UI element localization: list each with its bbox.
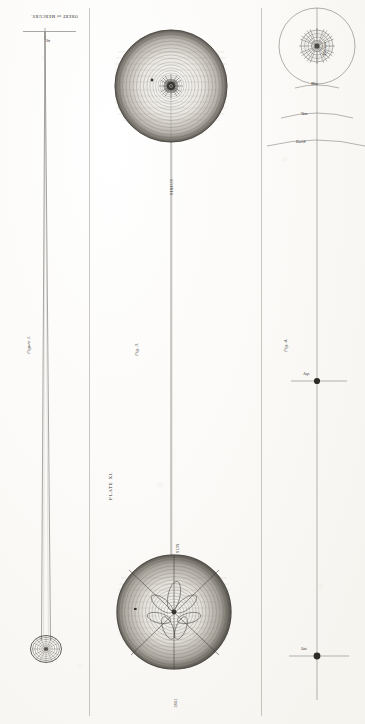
figure-3-bottom-label: 1861 <box>174 698 178 708</box>
figure-3-sun-label: SUN <box>176 543 180 553</box>
figure-4-sun-body-label: The Sun <box>323 42 327 56</box>
figure-1-axis-tick-label: Sn <box>46 39 50 43</box>
engraved-plate: OBERT of MERCURY. Sn Figure 1. PLATE XI. <box>0 0 365 724</box>
figure-4-node-label-jupiter: Jup. <box>303 372 310 376</box>
figure-1-top-label: OBERT of MERCURY. <box>31 14 78 18</box>
figure-4-arc-label-mercury: Mer. <box>311 82 319 86</box>
sun-marker-dot <box>134 608 137 610</box>
figure-4-node-label-saturn: Sat. <box>301 647 307 651</box>
figure-1-drawing <box>0 0 89 724</box>
figure-4-drawing <box>261 0 365 724</box>
figure-1-label: Figure 1. <box>26 336 31 354</box>
figure-4-sun <box>299 28 335 64</box>
sirius-globe <box>115 30 227 142</box>
figure-3-sirius-label: SIRIUS <box>170 179 174 195</box>
figure-4-label: Fig. 4. <box>283 339 288 352</box>
figure-4-node-saturn <box>289 653 349 660</box>
figure-4-node-jupiter <box>291 378 347 384</box>
sirius-companion-dot <box>151 79 154 82</box>
sun-globe <box>117 555 231 669</box>
figure-4-arc-label-venus: Ven. <box>301 112 308 116</box>
figure-3-drawing <box>89 0 261 724</box>
figure-3-label: Fig. 3. <box>134 343 139 356</box>
figure-4-arc-earth <box>267 140 365 146</box>
figure-4-arc-label-earth: Earth <box>296 140 306 144</box>
